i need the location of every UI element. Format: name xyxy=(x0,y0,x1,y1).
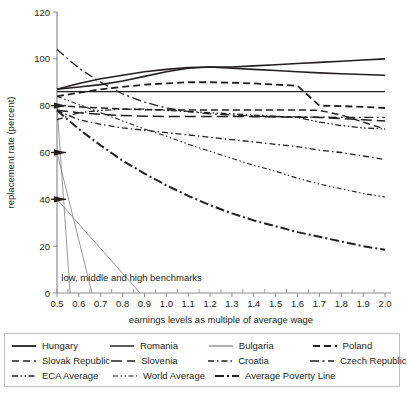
y-axis-tick-label: 40 xyxy=(39,194,50,205)
y-axis-title: replacement rate (percent) xyxy=(5,97,16,209)
series-line xyxy=(57,82,385,108)
series-line xyxy=(57,96,385,197)
legend-item[interactable]: Slovak Republic xyxy=(11,353,110,368)
series-line xyxy=(57,67,385,89)
y-axis-tick-label: 80 xyxy=(39,100,50,111)
x-axis-title: earnings levels as multiple of average w… xyxy=(129,314,313,325)
legend-label: Average Poverty Line xyxy=(245,370,336,382)
legend-line-swatch-icon xyxy=(11,355,37,367)
legend-label: World Average xyxy=(143,370,205,382)
legend-row: Slovak RepublicSloveniaCroatiaCzech Repu… xyxy=(11,353,395,368)
legend-label: ECA Average xyxy=(42,370,98,382)
legend-item[interactable]: Bulgaria xyxy=(208,338,312,353)
legend-label: Czech Republic xyxy=(340,355,407,367)
legend-item[interactable]: Romania xyxy=(109,338,208,353)
x-axis-tick-label: 1.2 xyxy=(203,298,216,309)
x-axis-tick-label: 1.6 xyxy=(291,298,304,309)
x-axis-tick-label: 1.4 xyxy=(247,298,260,309)
legend-line-swatch-icon xyxy=(208,340,234,352)
legend-item[interactable]: Czech Republic xyxy=(309,353,395,368)
y-axis-tick-label: 60 xyxy=(39,147,50,158)
replacement-rate-chart: 1201008060402000.50.60.70.80.91.01.11.21… xyxy=(0,0,407,397)
series-layer xyxy=(57,49,385,249)
x-axis-tick-label: 1.9 xyxy=(357,298,370,309)
legend-item[interactable]: World Average xyxy=(112,368,214,383)
legend-label: Slovenia xyxy=(141,355,177,367)
legend-item[interactable]: Croatia xyxy=(207,353,309,368)
x-axis-tick-label: 0.9 xyxy=(138,298,151,309)
legend-label: Slovak Republic xyxy=(42,355,110,367)
y-axis-tick-label: 0 xyxy=(45,288,50,299)
legend-label: Croatia xyxy=(238,355,269,367)
legend-label: Poland xyxy=(343,340,373,352)
y-axis-tick-label: 100 xyxy=(34,53,50,64)
x-axis-tick-label: 1.5 xyxy=(269,298,282,309)
legend-line-swatch-icon xyxy=(214,370,240,382)
series-line xyxy=(57,110,385,121)
legend-item[interactable]: ECA Average xyxy=(11,368,112,383)
legend-line-swatch-icon xyxy=(112,370,138,382)
legend-line-swatch-icon xyxy=(309,355,335,367)
x-axis-tick-label: 1.1 xyxy=(182,298,195,309)
legend-row: ECA AverageWorld AverageAverage Poverty … xyxy=(11,368,395,383)
x-axis-tick-label: 0.7 xyxy=(94,298,107,309)
x-axis-tick-label: 1.3 xyxy=(225,298,238,309)
x-axis-tick-label: 1.7 xyxy=(313,298,326,309)
legend-line-swatch-icon xyxy=(109,340,135,352)
x-axis-tick-label: 2.0 xyxy=(378,298,391,309)
x-axis-tick-label: 0.8 xyxy=(116,298,129,309)
benchmarks-annotation: low, middle and high benchmarks xyxy=(61,272,202,283)
legend-item[interactable]: Hungary xyxy=(11,338,109,353)
legend-item[interactable]: Slovenia xyxy=(110,353,207,368)
series-line xyxy=(57,110,385,249)
legend-line-swatch-icon xyxy=(207,355,233,367)
legend-line-swatch-icon xyxy=(110,355,136,367)
legend-line-swatch-icon xyxy=(11,340,37,352)
legend-label: Bulgaria xyxy=(239,340,274,352)
y-axis-tick-label: 120 xyxy=(34,7,50,18)
y-axis-tick-label: 20 xyxy=(39,241,50,252)
legend-line-swatch-icon xyxy=(312,340,338,352)
legend-line-swatch-icon xyxy=(11,370,37,382)
legend-row: HungaryRomaniaBulgariaPoland xyxy=(11,338,395,353)
axes-layer: 1201008060402000.50.60.70.80.91.01.11.21… xyxy=(34,7,391,310)
legend-label: Romania xyxy=(140,340,178,352)
x-axis-tick-label: 0.5 xyxy=(50,298,63,309)
chart-legend: HungaryRomaniaBulgariaPolandSlovak Repub… xyxy=(4,333,400,387)
x-axis-tick-label: 1.8 xyxy=(335,298,348,309)
legend-item[interactable]: Average Poverty Line xyxy=(214,368,321,383)
benchmark-lines-layer: low, middle and high benchmarks xyxy=(51,102,202,293)
axis-labels-layer: replacement rate (percent)earnings level… xyxy=(5,97,313,325)
series-line xyxy=(57,109,385,129)
x-axis-tick-label: 1.0 xyxy=(160,298,173,309)
legend-item[interactable]: Poland xyxy=(312,338,395,353)
x-axis-tick-label: 0.6 xyxy=(72,298,85,309)
legend-label: Hungary xyxy=(42,340,78,352)
